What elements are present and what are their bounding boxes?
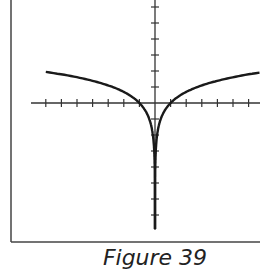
curve-left-branch [46, 72, 155, 229]
curve-right-branch [155, 73, 260, 229]
axis-ticks [46, 7, 249, 215]
figure-caption: Figure 39 [0, 245, 260, 270]
chart-plot [0, 0, 260, 245]
chart-axes [31, 0, 260, 230]
chart-frame [11, 0, 260, 242]
